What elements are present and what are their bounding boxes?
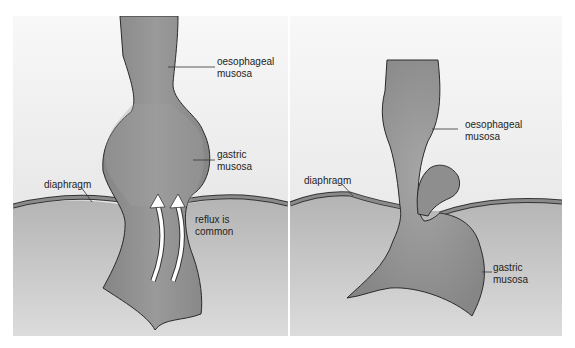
panel-sliding-hernia: oesophageal musosa gastric musosa diaphr… bbox=[13, 16, 288, 336]
label-diaphragm: diaphragm bbox=[304, 175, 351, 187]
label-gastric-mucosa: gastric musosa bbox=[217, 149, 252, 173]
label-oesophageal-mucosa: oesophageal musosa bbox=[217, 56, 274, 80]
label-gastric-mucosa: gastric musosa bbox=[493, 262, 528, 286]
label-oesophageal-mucosa: oesophageal musosa bbox=[465, 119, 522, 143]
label-diaphragm: diaphragm bbox=[44, 179, 91, 191]
label-reflux: reflux is common bbox=[195, 214, 233, 238]
panel-rolling-hernia: oesophageal musosa gastric musosa diaphr… bbox=[290, 16, 562, 336]
